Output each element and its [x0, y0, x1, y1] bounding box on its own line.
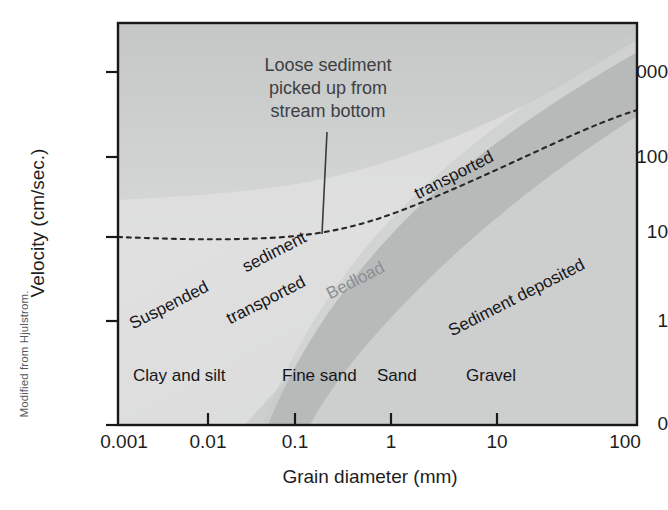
callout-line-1: Loose sediment [230, 54, 426, 77]
category-label-gravel: Gravel [466, 366, 516, 386]
category-label-fine-sand: Fine sand [282, 366, 357, 386]
callout-line-3: stream bottom [230, 100, 426, 123]
figure-root: Modified from Hjulstrom. Velocity (cm/se… [0, 0, 668, 510]
category-label-clay-and-silt: Clay and silt [133, 366, 226, 386]
callout-line-2: picked up from [230, 77, 426, 100]
category-label-sand: Sand [377, 366, 417, 386]
y-axis-ticks [106, 72, 118, 425]
